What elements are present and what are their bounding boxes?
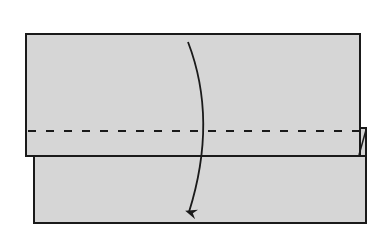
fold-diagram-canvas: [0, 0, 383, 240]
origami-diagram: [0, 0, 383, 240]
front-paper-layer: [26, 34, 360, 156]
